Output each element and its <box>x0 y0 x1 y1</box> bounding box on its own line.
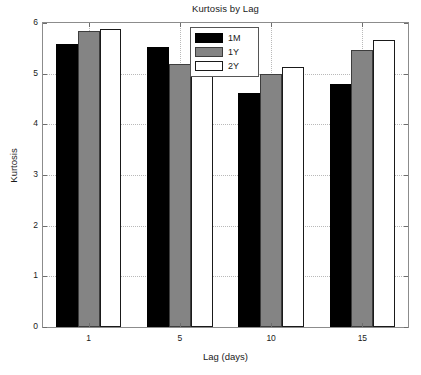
x-tick-mark <box>271 23 272 27</box>
legend-swatch-icon-1M <box>195 33 223 43</box>
y-tick-label: 3 <box>8 169 38 179</box>
y-tick-mark <box>404 23 408 24</box>
x-tick-mark <box>180 23 181 27</box>
legend-label: 2Y <box>228 61 239 71</box>
y-axis-tick-labels: 0123456 <box>6 22 38 328</box>
y-tick-mark <box>404 74 408 75</box>
legend-item-2Y[interactable]: 2Y <box>195 59 254 73</box>
x-tick-mark <box>362 23 363 27</box>
y-tick-mark <box>43 226 47 227</box>
bar-2Y-lag-15 <box>373 40 395 327</box>
x-tick-mark <box>271 323 272 327</box>
legend-swatch-icon-1Y <box>195 47 223 57</box>
y-tick-mark <box>404 226 408 227</box>
bar-1Y-lag-1 <box>78 31 100 327</box>
bar-1M-lag-10 <box>238 93 260 327</box>
y-tick-label: 6 <box>8 17 38 27</box>
y-tick-mark <box>43 327 47 328</box>
bar-2Y-lag-1 <box>100 29 122 327</box>
x-tick-label: 5 <box>160 333 200 343</box>
bar-1Y-lag-5 <box>169 64 191 327</box>
chart-legend: 1M1Y2Y <box>190 27 259 77</box>
bar-2Y-lag-10 <box>282 67 304 327</box>
x-tick-label: 10 <box>251 333 291 343</box>
y-tick-mark <box>43 276 47 277</box>
legend-swatch-icon-2Y <box>195 61 223 71</box>
bar-2Y-lag-5 <box>191 56 213 327</box>
y-tick-label: 2 <box>8 220 38 230</box>
y-tick-label: 4 <box>8 118 38 128</box>
x-axis-title: Lag (days) <box>42 351 409 362</box>
bar-1Y-lag-10 <box>260 74 282 327</box>
legend-item-1M[interactable]: 1M <box>195 31 254 45</box>
figure-canvas: Kurtosis by Lag Kurtosis 0123456 151015 … <box>0 0 421 375</box>
y-tick-label: 5 <box>8 68 38 78</box>
y-tick-mark <box>43 175 47 176</box>
bar-1M-lag-15 <box>330 84 352 327</box>
y-tick-mark <box>43 23 47 24</box>
chart-title: Kurtosis by Lag <box>42 3 409 14</box>
legend-label: 1Y <box>228 47 239 57</box>
y-tick-label: 1 <box>8 270 38 280</box>
x-tick-mark <box>362 323 363 327</box>
x-tick-label: 15 <box>342 333 382 343</box>
y-tick-mark <box>404 276 408 277</box>
y-tick-mark <box>404 327 408 328</box>
x-tick-mark <box>89 323 90 327</box>
bar-1Y-lag-15 <box>351 50 373 327</box>
x-tick-mark <box>180 323 181 327</box>
x-axis-tick-labels: 151015 <box>42 333 409 347</box>
y-tick-mark <box>404 124 408 125</box>
y-tick-label: 0 <box>8 321 38 331</box>
x-tick-mark <box>89 23 90 27</box>
legend-item-1Y[interactable]: 1Y <box>195 45 254 59</box>
y-tick-mark <box>404 175 408 176</box>
y-tick-mark <box>43 74 47 75</box>
legend-label: 1M <box>228 33 241 43</box>
bar-1M-lag-5 <box>147 47 169 327</box>
bar-1M-lag-1 <box>56 44 78 327</box>
y-tick-mark <box>43 124 47 125</box>
x-tick-label: 1 <box>69 333 109 343</box>
